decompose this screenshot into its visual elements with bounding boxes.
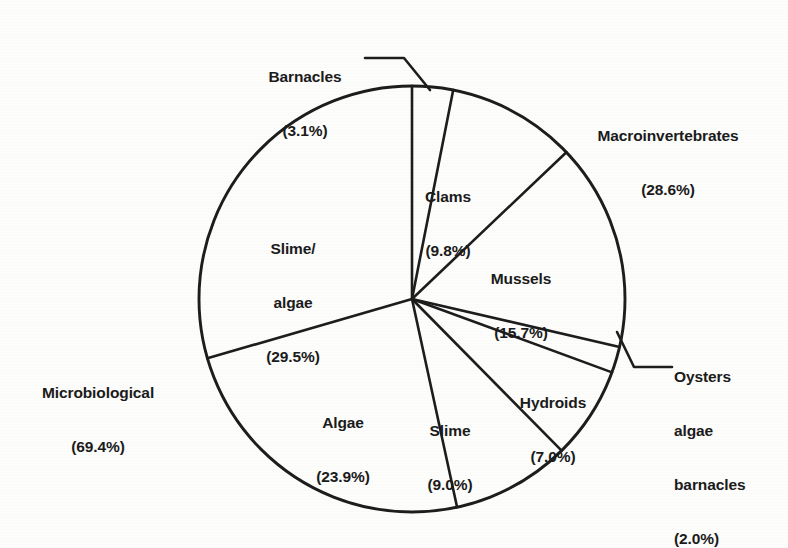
- group-label-microbiological-pct: (69.4%): [8, 438, 188, 456]
- slice-label-slime-algae-pct: (29.5%): [230, 348, 356, 366]
- slice-label-mussels-pct: (15.7%): [460, 324, 582, 342]
- slice-label-barnacles: Barnacles (3.1%): [240, 32, 370, 176]
- slice-label-mussels: Mussels (15.7%): [460, 234, 582, 378]
- group-label-microbiological: Microbiological (69.4%): [8, 348, 188, 492]
- slice-label-slime-name: Slime: [400, 422, 500, 440]
- slice-label-slime-algae: Slime/ algae (29.5%): [230, 204, 356, 402]
- leader-line-oysters: [617, 332, 672, 367]
- slice-label-oysters-name: Oysters: [674, 368, 788, 386]
- slice-label-barnacles-name: Barnacles: [240, 68, 370, 86]
- slice-label-algae-pct: (23.9%): [288, 468, 398, 486]
- slice-label-slime: Slime (9.0%): [400, 386, 500, 530]
- slice-label-hydroids-name: Hydroids: [498, 394, 608, 412]
- slice-label-slime-pct: (9.0%): [400, 476, 500, 494]
- group-label-microbiological-name: Microbiological: [8, 384, 188, 402]
- slice-label-algae-name: Algae: [288, 414, 398, 432]
- slice-label-mussels-name: Mussels: [460, 270, 582, 288]
- slice-label-clams-name: Clams: [396, 188, 500, 206]
- group-label-macroinvertebrates-pct: (28.6%): [552, 181, 784, 199]
- slice-label-oysters-name2: algae: [674, 422, 788, 440]
- slice-label-slime-algae-name: Slime/: [230, 240, 356, 258]
- group-label-macroinvertebrates-name: Macroinvertebrates: [552, 127, 784, 145]
- slice-label-oysters-pct: (2.0%): [674, 530, 788, 548]
- slice-label-hydroids-pct: (7.0%): [498, 448, 608, 466]
- slice-label-barnacles-pct: (3.1%): [240, 122, 370, 140]
- slice-label-oysters-algae-barnacles: Oysters algae barnacles (2.0%): [674, 332, 788, 548]
- slice-label-oysters-name3: barnacles: [674, 476, 788, 494]
- pie-chart: Barnacles (3.1%) Macroinvertebrates (28.…: [0, 0, 788, 548]
- slice-label-algae: Algae (23.9%): [288, 378, 398, 522]
- slice-label-slime-algae-name2: algae: [230, 294, 356, 312]
- group-label-macroinvertebrates: Macroinvertebrates (28.6%): [552, 91, 784, 235]
- slice-label-hydroids: Hydroids (7.0%): [498, 358, 608, 502]
